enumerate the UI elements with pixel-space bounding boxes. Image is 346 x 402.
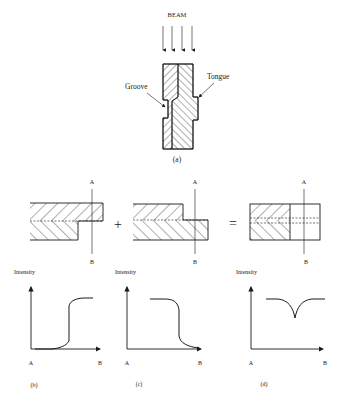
caption-d: (d) xyxy=(261,381,268,388)
graph-b: Intensity A B (b) xyxy=(14,269,102,389)
equals-sign: = xyxy=(229,216,237,231)
label-b: B xyxy=(193,259,197,265)
groove-label: Groove xyxy=(125,82,148,91)
tongue-label: Tongue xyxy=(207,72,230,81)
cross-section-row: A B + A B = A B xyxy=(30,179,320,265)
intensity-curve xyxy=(35,298,93,349)
ylabel: Intensity xyxy=(236,269,257,275)
x-start-label: A xyxy=(125,360,130,366)
caption-c: (c) xyxy=(136,381,143,388)
beam-label: BEAM xyxy=(168,11,187,18)
graph-d: Intensity A B (d) xyxy=(236,269,327,388)
x-start-label: A xyxy=(29,360,34,366)
cross-section-2: A B xyxy=(133,179,208,265)
panel-a: BEAM Groove Tongue (a) xyxy=(125,11,230,164)
x-start-label: A xyxy=(249,360,254,366)
cross-section-1: A B xyxy=(30,179,103,265)
x-end-label: B xyxy=(98,360,102,366)
x-end-label: B xyxy=(198,360,202,366)
caption-a: (a) xyxy=(173,155,182,164)
graph-c: Intensity A B (c) xyxy=(115,269,202,388)
label-a: A xyxy=(90,179,95,185)
groove-pointer-icon xyxy=(147,93,165,107)
beam-arrows xyxy=(163,26,192,50)
intensity-curve xyxy=(150,299,199,348)
tongue-pointer-icon xyxy=(199,83,214,97)
label-a: A xyxy=(193,179,198,185)
cross-section-3: A B xyxy=(250,179,320,265)
ylabel: Intensity xyxy=(115,269,136,275)
plus-sign: + xyxy=(114,217,122,232)
intensity-curve xyxy=(266,299,325,318)
label-b: B xyxy=(90,259,94,265)
tongue-groove-diagram: BEAM Groove Tongue (a) xyxy=(0,0,346,402)
label-a: A xyxy=(302,179,307,185)
label-b: B xyxy=(304,259,308,265)
x-end-label: B xyxy=(323,360,327,366)
ylabel: Intensity xyxy=(14,269,35,275)
caption-b: (b) xyxy=(31,382,38,389)
